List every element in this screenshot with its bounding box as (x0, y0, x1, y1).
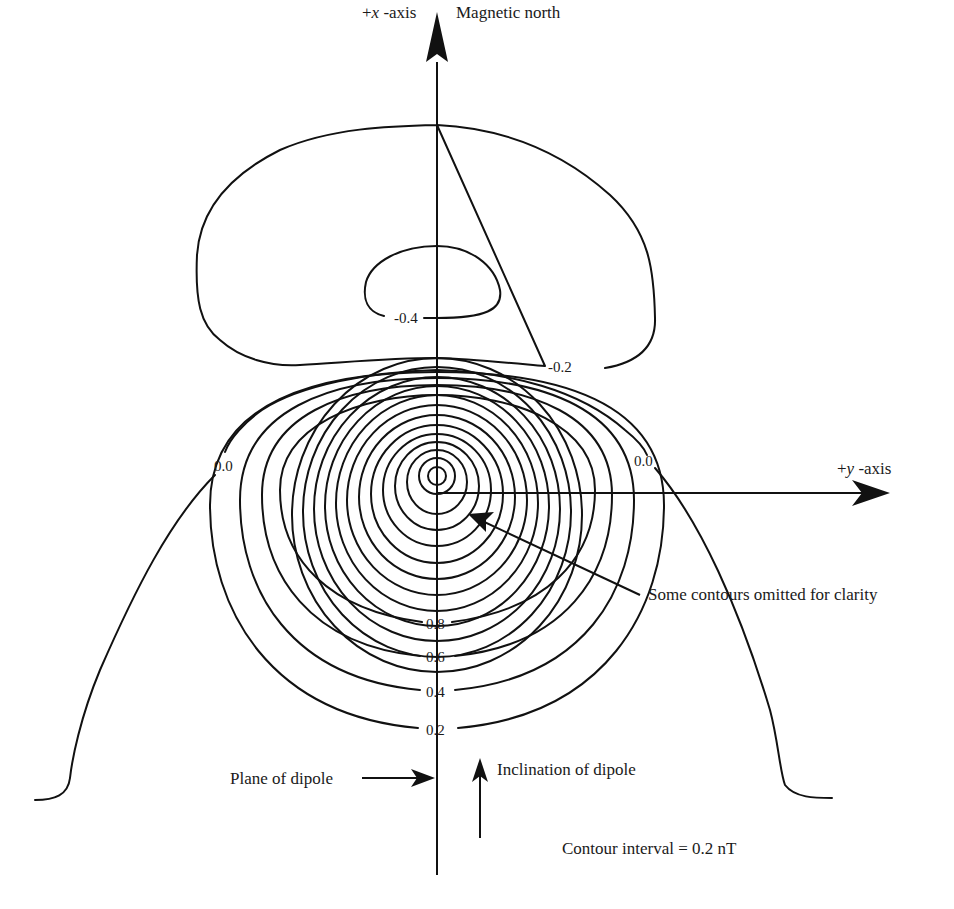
label-neg-0.2: -0.2 (548, 359, 572, 375)
contour-neg-0.4 (365, 246, 501, 318)
inclination-label: Inclination of dipole (497, 760, 636, 779)
label-neg-0.4: -0.4 (394, 310, 418, 326)
plane-of-dipole-label: Plane of dipole (230, 769, 333, 788)
label-pos-0.8: 0.8 (426, 616, 445, 632)
y-axis-label: +y -axis (837, 459, 891, 478)
x-axis-label: +x -axis (362, 3, 416, 22)
contour-zero-right (437, 370, 832, 798)
contour-interval-note: Contour interval = 0.2 nT (562, 839, 737, 858)
contour-zero-left (35, 370, 437, 800)
label-zero-left: 0.0 (214, 458, 233, 474)
north-arrow-icon (426, 12, 448, 62)
label-zero-right: 0.0 (634, 453, 653, 469)
pointer-arrow-icon (468, 512, 494, 532)
plane-arrow (362, 769, 435, 787)
omitted-contours-note: Some contours omitted for clarity (648, 585, 878, 604)
dipole-contour-figure: -0.4 -0.2 0.0 0.0 0.8 0.6 0.4 0.2 +x -ax… (0, 0, 954, 909)
label-pos-0.4: 0.4 (426, 684, 445, 700)
label-pos-0.2: 0.2 (426, 722, 445, 738)
north-label: Magnetic north (456, 3, 561, 22)
label-pos-0.6: 0.6 (426, 649, 445, 665)
inclination-arrow (472, 758, 488, 838)
